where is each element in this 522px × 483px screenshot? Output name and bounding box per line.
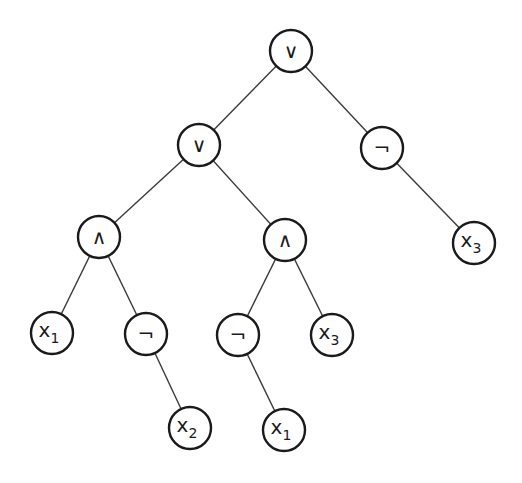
node-label: ¬ bbox=[374, 136, 391, 160]
expression-tree-diagram: ∨∨¬∧∧x3x1¬¬x3x2x1 bbox=[0, 0, 522, 483]
tree-node-and: ∧ bbox=[264, 219, 306, 261]
tree-node-var: x2 bbox=[169, 407, 211, 449]
tree-node-not: ¬ bbox=[217, 314, 259, 356]
tree-node-or: ∨ bbox=[270, 30, 312, 72]
tree-node-and: ∧ bbox=[78, 216, 120, 258]
tree-node-var: x3 bbox=[453, 222, 495, 264]
node-label: ¬ bbox=[230, 323, 247, 347]
tree-node-not: ¬ bbox=[361, 127, 403, 169]
node-label: ∧ bbox=[278, 228, 293, 252]
tree-node-or: ∨ bbox=[178, 124, 220, 166]
tree-node-var: x3 bbox=[311, 314, 353, 356]
node-label: ∨ bbox=[284, 39, 299, 63]
tree-node-var: x1 bbox=[263, 409, 305, 451]
tree-node-var: x1 bbox=[31, 312, 73, 354]
node-label: ¬ bbox=[138, 322, 155, 346]
node-label: ∨ bbox=[192, 133, 207, 157]
node-label: ∧ bbox=[92, 225, 107, 249]
tree-node-not: ¬ bbox=[125, 313, 167, 355]
